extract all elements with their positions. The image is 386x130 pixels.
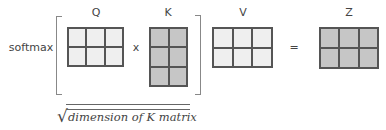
matrix-cell xyxy=(68,47,86,66)
matrix-cell xyxy=(86,47,104,66)
matrix-q-label: Q xyxy=(86,6,106,19)
matrix-cell xyxy=(213,48,233,68)
matrix-cell xyxy=(320,28,339,48)
matrix-cell xyxy=(150,28,169,47)
matrix-cell xyxy=(339,48,358,68)
matrix-z xyxy=(319,27,379,69)
matrix-cell xyxy=(359,28,378,48)
softmax-label: softmax xyxy=(8,41,54,54)
matrix-cell xyxy=(233,48,253,68)
matrix-cell xyxy=(105,28,123,47)
matrix-cell xyxy=(169,67,188,86)
fraction-line xyxy=(66,104,190,105)
right-bracket xyxy=(195,15,201,95)
equals-operator: = xyxy=(288,41,300,54)
matrix-cell xyxy=(213,28,233,48)
matrix-v xyxy=(212,27,273,68)
matrix-cell xyxy=(68,28,86,47)
denominator-text: dimension of K matrix xyxy=(68,110,197,124)
matrix-k-label: K xyxy=(158,6,178,19)
matrix-q xyxy=(67,27,124,67)
left-bracket xyxy=(56,16,62,95)
matrix-cell xyxy=(86,28,104,47)
matrix-cell xyxy=(252,48,272,68)
matrix-cell xyxy=(233,28,253,48)
matrix-cell xyxy=(169,47,188,66)
matrix-cell xyxy=(339,28,358,48)
matrix-v-label: V xyxy=(233,6,253,19)
matrix-cell xyxy=(359,48,378,68)
matrix-k xyxy=(149,27,188,87)
matrix-cell xyxy=(150,47,169,66)
matrix-z-label: Z xyxy=(339,6,359,19)
matrix-cell xyxy=(150,67,169,86)
matrix-cell xyxy=(105,47,123,66)
matrix-cell xyxy=(320,48,339,68)
matrix-cell xyxy=(252,28,272,48)
matrix-cell xyxy=(169,28,188,47)
multiply-operator: x xyxy=(130,41,142,54)
